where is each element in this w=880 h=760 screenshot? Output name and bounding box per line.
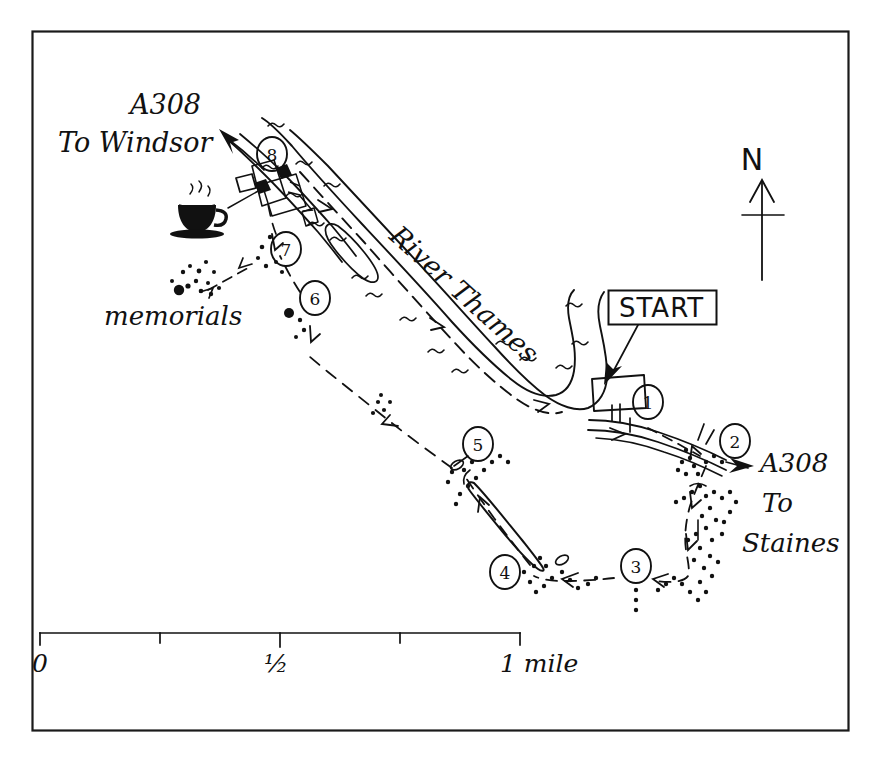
waypoint-label-6: 6 [310, 289, 321, 309]
scale-label-start: 0 [32, 649, 48, 678]
waypoint-label-1: 1 [643, 393, 654, 413]
road-label-a308-northwest: A308 [127, 89, 201, 120]
waypoint-label-4: 4 [500, 563, 511, 583]
waypoint-label-7: 7 [281, 240, 292, 260]
road-label-a308-southeast: A308 [758, 448, 828, 478]
road-label-staines: Staines [742, 528, 840, 558]
start-label-text: START [619, 293, 704, 323]
waypoint-label-2: 2 [730, 432, 741, 452]
road-label-to-windsor: To Windsor [58, 127, 214, 158]
memorials-label: memorials [104, 301, 242, 331]
waypoint-label-3: 3 [631, 557, 642, 577]
waypoint-label-8: 8 [267, 145, 278, 165]
waypoint-label-5: 5 [473, 435, 484, 455]
scale-label-end: 1 mile [500, 649, 578, 678]
scale-label-mid: ½ [264, 649, 288, 678]
map-canvas: River Thames A308 To Windsor [0, 0, 880, 760]
road-label-to: To [762, 488, 793, 518]
hand-drawn-map: River Thames A308 To Windsor [0, 0, 880, 760]
north-arrow-label: N [741, 142, 763, 177]
